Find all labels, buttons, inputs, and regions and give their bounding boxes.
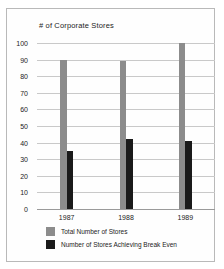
y-axis-tick-label: 50: [20, 123, 28, 130]
bar-break-even-stores: [185, 141, 192, 209]
legend-label: Number of Stores Achieving Break Even: [61, 241, 177, 248]
y-axis-tick-label: 30: [20, 156, 28, 163]
legend-label: Total Number of Stores: [61, 228, 127, 235]
legend-item: Total Number of Stores: [46, 225, 177, 238]
y-axis-tick-label: 70: [20, 89, 28, 96]
x-axis-tick-label: 1988: [118, 214, 134, 221]
y-axis-tick-label: 40: [20, 139, 28, 146]
y-axis-tick-label: 60: [20, 106, 28, 113]
y-axis-tick-label: 20: [20, 172, 28, 179]
chart-frame: # of Corporate Stores 100908070605040302…: [6, 8, 215, 262]
chart-legend: Total Number of StoresNumber of Stores A…: [46, 225, 177, 251]
y-axis-tick-label: 90: [20, 56, 28, 63]
chart-title: # of Corporate Stores: [39, 21, 114, 30]
y-axis-tick-label: 80: [20, 73, 28, 80]
y-axis-tick-label: 100: [16, 40, 28, 47]
plot-area: 1009080706050403020100 198719881989: [31, 43, 215, 209]
legend-item: Number of Stores Achieving Break Even: [46, 238, 177, 251]
axis-baseline: [37, 209, 215, 210]
x-axis-tick-label: 1987: [59, 214, 75, 221]
y-axis-tick-label: 10: [20, 189, 28, 196]
y-axis-tick-label: 0: [24, 206, 28, 213]
legend-swatch: [46, 240, 55, 249]
legend-swatch: [46, 227, 55, 236]
x-axis-tick-label: 1989: [178, 214, 194, 221]
bar-group: [31, 43, 215, 209]
